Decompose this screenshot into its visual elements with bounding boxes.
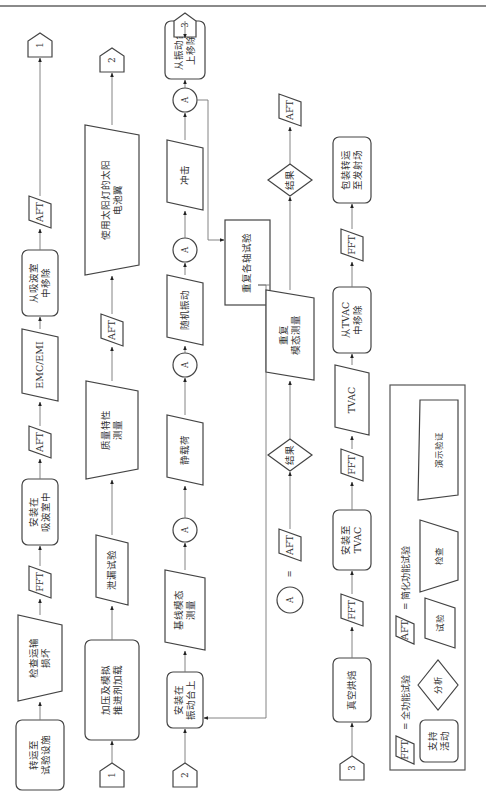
node-label: FFT xyxy=(34,572,45,592)
node-results: 结果 xyxy=(268,439,312,471)
node-emc-emi: EMC/EMI xyxy=(22,329,58,401)
flowchart: 转运至试验设施检查运输损坏FFT安装在吸波室中AFTEMC/EMI从吸波室中移除… xyxy=(0,0,486,810)
node-label: 振动台上 xyxy=(185,680,196,720)
node-leak-test: 泄漏试验 xyxy=(96,535,128,605)
node-label: 质量特性 xyxy=(100,410,111,450)
node-remove-tvac: 从TVAC中移除 xyxy=(333,287,371,353)
node-label: A xyxy=(180,96,190,104)
node-label: 3 xyxy=(180,22,190,27)
node-label: 检查运输 xyxy=(28,638,39,678)
node-pressurize-propellant-load: 加压及模拟推进剂加载 xyxy=(85,640,139,740)
node-fft: FFT xyxy=(341,594,363,626)
node-label: 从TVAC xyxy=(340,302,351,339)
node-label: 基线模态 xyxy=(173,590,184,630)
legend-demonstration-label: 演示验证 xyxy=(434,432,444,468)
node-fft: FFT xyxy=(29,566,51,598)
legend-demonstration: 演示验证 xyxy=(418,400,458,500)
node-label: 泄漏试验 xyxy=(106,550,117,590)
node-label: 重复各轴试验 xyxy=(241,233,252,293)
node-mass-properties: 质量特性测量 xyxy=(86,381,138,479)
node-shock: 冲击 xyxy=(167,140,203,210)
node-label: AFT xyxy=(106,319,117,340)
node-label: 转运至 xyxy=(28,740,39,770)
node-results: 结果 xyxy=(268,164,312,196)
legend-inspection-label: 检查 xyxy=(434,547,444,565)
legend-analysis-label: 分析 xyxy=(433,676,443,694)
node-label: 重复 xyxy=(278,325,289,345)
offpage-connector-1: 1 xyxy=(100,763,124,787)
node-aft: AFT xyxy=(29,426,51,458)
node-label: 活动 xyxy=(439,731,450,751)
node-label: 2 xyxy=(180,772,190,777)
node-label: 2 xyxy=(107,57,117,62)
legend-test-label: 试验 xyxy=(435,614,445,632)
node-random-vibration: 随机振动 xyxy=(167,275,203,345)
node-label: AFT xyxy=(284,99,295,120)
node-aft: AFT xyxy=(279,94,301,126)
node-label: FFT xyxy=(399,740,410,760)
a-definition: A= xyxy=(277,570,303,613)
node-label: AFT xyxy=(34,431,45,452)
legend-box: FFT= 全功能试验AFT= 简化功能试验支持活动分析试验检查演示验证 xyxy=(390,385,465,770)
node-install-shaker: 安装在振动台上 xyxy=(167,672,203,728)
node-solar-array-sun-lamp: 使用太阳灯的太阳电池翼 xyxy=(85,125,139,275)
node-label: 安装至 xyxy=(340,525,351,555)
offpage-connector-1: 1 xyxy=(28,33,52,57)
node-label: 1 xyxy=(35,42,45,47)
node-label: 测量 xyxy=(112,420,123,440)
node-label: AFT xyxy=(284,534,295,555)
loop-return-line xyxy=(204,285,270,718)
legend-aft-desc: = 简化功能试验 xyxy=(400,546,411,610)
legend-fft-desc: = 全功能试验 xyxy=(400,675,411,730)
node-a: A xyxy=(173,238,197,262)
legend-support-activity: 支持活动 xyxy=(420,720,458,762)
node-ship-to-launch-site: 包装转运至发射场 xyxy=(333,137,371,203)
node-aft: AFT xyxy=(279,529,301,561)
node-label: TVAC xyxy=(352,527,363,554)
node-label: 结果 xyxy=(284,170,295,190)
node-label: 推进剂加载 xyxy=(112,665,123,715)
node-install-anechoic-chamber: 安装在吸波室中 xyxy=(22,479,58,545)
node-label: FFT xyxy=(346,235,357,255)
node-label: 3 xyxy=(347,765,357,770)
node-label: A xyxy=(180,361,190,369)
node-label: 结果 xyxy=(284,445,295,465)
node-label: A xyxy=(180,526,190,534)
offpage-connector-3: 3 xyxy=(340,756,364,780)
node-label: 支持 xyxy=(427,731,438,751)
node-label: 至发射场 xyxy=(352,150,363,190)
node-baseline-modal: 基线模态测量 xyxy=(165,570,205,650)
node-aft: AFT xyxy=(101,314,123,346)
node-label: AFT xyxy=(34,201,45,222)
node-label: 包装转运 xyxy=(340,150,351,190)
node-label: TVAC xyxy=(346,387,357,414)
node-label: 模态测量 xyxy=(290,315,301,355)
node-label: 测量 xyxy=(185,600,196,620)
node-label: 冲击 xyxy=(179,165,190,185)
node-label: 随机振动 xyxy=(179,290,190,330)
node-label: 中移除 xyxy=(40,268,51,298)
node-label: AFT xyxy=(399,619,410,640)
node-repeat-modal: 重复模态测量 xyxy=(266,290,314,380)
node-label: 电池翼 xyxy=(112,185,123,215)
node-label: EMC/EMI xyxy=(34,341,45,389)
node-label: 吸波室中 xyxy=(40,492,51,532)
node-label: 试验设施 xyxy=(40,735,51,775)
node-label: 真空烘焙 xyxy=(346,670,357,710)
a-symbol: A xyxy=(285,596,295,604)
node-label: 加压及模拟 xyxy=(100,665,111,715)
node-a: A xyxy=(173,353,197,377)
node-label: 从吸波室 xyxy=(28,263,39,303)
node-vacuum-bakeout: 真空烘焙 xyxy=(333,658,371,722)
node-label: 损坏 xyxy=(40,648,51,668)
node-fft: FFT xyxy=(341,229,363,261)
node-label: 静载荷 xyxy=(179,435,190,465)
node-aft: AFT xyxy=(29,196,51,228)
repeat-each-axis-box: 重复各轴试验 xyxy=(225,220,270,305)
equals-sign: = xyxy=(285,570,295,577)
node-remove-anechoic-chamber: 从吸波室中移除 xyxy=(22,250,58,316)
node-label: 安装在 xyxy=(173,685,184,715)
node-install-tvac: 安装至TVAC xyxy=(333,510,371,570)
offpage-connector-2: 2 xyxy=(100,48,124,72)
legend-inspection: 检查 xyxy=(420,520,458,592)
